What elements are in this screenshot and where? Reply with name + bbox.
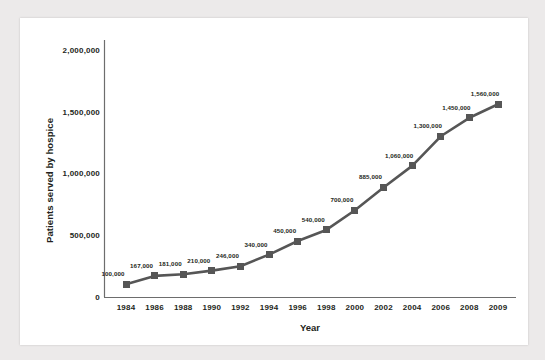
data-point-marker: [180, 271, 187, 278]
data-point-marker: [495, 101, 502, 108]
y-axis-title: Patients served by hospice: [44, 86, 55, 276]
data-point-marker: [437, 133, 444, 140]
data-point-marker: [208, 267, 215, 274]
data-point-marker: [380, 184, 387, 191]
data-point-label: 1,560,000: [455, 90, 515, 97]
data-point-marker: [351, 207, 358, 214]
data-point-label: 450,000: [255, 227, 315, 234]
data-point-marker: [466, 114, 473, 121]
data-point-label: 885,000: [341, 173, 401, 180]
data-point-marker: [237, 263, 244, 270]
data-point-marker: [409, 162, 416, 169]
data-point-label: 1,450,000: [426, 104, 486, 111]
data-point-marker: [323, 226, 330, 233]
x-axis-title: Year: [275, 322, 345, 333]
line-chart: 0500,0001,000,0001,500,0002,000,000 1984…: [0, 0, 545, 360]
y-axis-tick-labels: 0500,0001,000,0001,500,0002,000,000: [30, 0, 100, 360]
y-tick-label: 2,000,000: [34, 46, 100, 55]
data-point-label: 1,300,000: [398, 122, 458, 129]
data-point-marker: [123, 281, 130, 288]
data-point-label: 246,000: [197, 252, 257, 259]
data-point-marker: [294, 238, 301, 245]
data-point-marker: [266, 251, 273, 258]
data-point-label: 340,000: [226, 241, 286, 248]
data-point-label: 700,000: [312, 196, 372, 203]
data-point-label: 540,000: [283, 216, 343, 223]
y-tick-label: 0: [34, 292, 100, 301]
x-tick-label: 2009: [478, 303, 518, 312]
data-point-label: 1,060,000: [369, 152, 429, 159]
chart-page: 0500,0001,000,0001,500,0002,000,000 1984…: [0, 0, 545, 360]
data-point-label: 100,000: [83, 270, 143, 277]
data-point-marker: [151, 272, 158, 279]
